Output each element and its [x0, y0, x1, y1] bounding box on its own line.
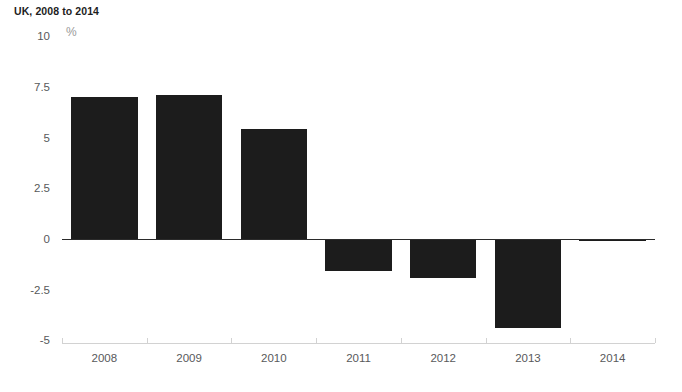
- bar-2009[interactable]: [156, 95, 223, 239]
- bar-series: [62, 0, 655, 392]
- x-axis-line: [62, 343, 655, 344]
- bar-2012[interactable]: [410, 239, 477, 278]
- y-axis-tick-label: 5: [0, 132, 50, 144]
- y-axis-tick-label: 0: [0, 233, 50, 245]
- y-axis-tick-label: -2.5: [0, 284, 50, 296]
- zero-baseline: [62, 239, 655, 240]
- x-axis-tick: [147, 338, 148, 343]
- x-axis-tick: [486, 338, 487, 343]
- bar-2013[interactable]: [495, 239, 562, 328]
- x-axis-tick: [231, 338, 232, 343]
- bar-2011[interactable]: [325, 239, 392, 271]
- x-axis-tick-label-2009: 2009: [176, 352, 202, 364]
- x-axis-tick: [316, 338, 317, 343]
- y-axis-tick-label: 2.5: [0, 182, 50, 194]
- x-axis-tick-label-2010: 2010: [261, 352, 287, 364]
- y-axis-tick-label: 7.5: [0, 81, 50, 93]
- y-axis-tick-label: 10: [0, 30, 50, 42]
- x-axis-tick-label-2013: 2013: [515, 352, 541, 364]
- x-axis-tick-label-2011: 2011: [346, 352, 371, 364]
- y-axis-tick-label: -5: [0, 334, 50, 346]
- x-axis-tick: [655, 338, 656, 343]
- x-axis-tick: [62, 338, 63, 343]
- x-axis-tick-label-2008: 2008: [92, 352, 118, 364]
- bar-2008[interactable]: [71, 97, 138, 239]
- bar-chart: UK, 2008 to 2014 % 107.552.50-2.5-5 2008…: [0, 0, 682, 392]
- bar-2010[interactable]: [241, 129, 308, 239]
- x-axis-tick: [401, 338, 402, 343]
- x-axis-tick: [570, 338, 571, 343]
- x-axis-tick-label-2012: 2012: [430, 352, 456, 364]
- x-axis-tick-label-2014: 2014: [600, 352, 626, 364]
